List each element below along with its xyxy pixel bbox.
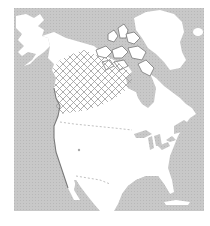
range-map: Range (cross-hatched) (14, 8, 204, 211)
iceland (193, 28, 203, 36)
interior-lake (78, 149, 80, 151)
map-canvas (14, 8, 204, 211)
